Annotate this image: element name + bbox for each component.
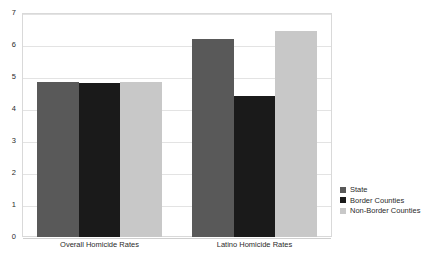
- y-tick-label: 6: [12, 41, 16, 49]
- legend-item[interactable]: State: [340, 186, 420, 194]
- x-tick-label: Overall Homicide Rates: [60, 241, 139, 249]
- bars-layer: [22, 13, 332, 237]
- legend-label: Non-Border Counties: [350, 207, 420, 215]
- legend-label: State: [350, 186, 368, 194]
- bar-chart: 01234567 Overall Homicide RatesLatino Ho…: [0, 0, 424, 260]
- y-tick-label: 7: [12, 9, 16, 17]
- bar: [120, 82, 162, 237]
- legend-swatch-icon: [340, 187, 346, 193]
- y-tick-label: 2: [12, 169, 16, 177]
- y-tick-label: 1: [12, 201, 16, 209]
- legend-swatch-icon: [340, 208, 346, 214]
- bar: [79, 83, 121, 237]
- x-tick-label: Latino Homicide Rates: [217, 241, 292, 249]
- y-tick-label: 3: [12, 137, 16, 145]
- legend-item[interactable]: Border Counties: [340, 197, 420, 205]
- y-tick-label: 4: [12, 105, 16, 113]
- legend-label: Border Counties: [350, 197, 404, 205]
- legend-swatch-icon: [340, 197, 346, 203]
- gridline: [23, 238, 331, 239]
- bar: [275, 31, 317, 237]
- chart-legend: StateBorder CountiesNon-Border Counties: [340, 186, 420, 215]
- bar: [234, 96, 276, 237]
- legend-item[interactable]: Non-Border Counties: [340, 207, 420, 215]
- y-tick-label: 0: [12, 233, 16, 241]
- y-axis: 01234567: [0, 0, 22, 260]
- y-tick-label: 5: [12, 73, 16, 81]
- bar: [37, 82, 79, 237]
- bar: [192, 39, 234, 237]
